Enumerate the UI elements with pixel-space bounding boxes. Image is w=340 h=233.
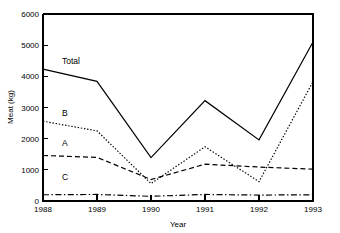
series-line-c xyxy=(43,194,313,196)
y-axis-ticks xyxy=(43,14,48,201)
y-axis-labels: 6000 5000 4000 3000 2000 1000 0 xyxy=(21,10,39,206)
series-label-total: Total xyxy=(62,56,80,66)
y-axis-title: Meat (kg) xyxy=(6,90,15,124)
series-line-a xyxy=(43,155,313,179)
y-tick-label-4000: 4000 xyxy=(21,72,39,81)
y-tick-label-3000: 3000 xyxy=(21,104,39,113)
y-tick-label-6000: 6000 xyxy=(21,10,39,19)
x-tick-label-1991: 1991 xyxy=(196,205,214,214)
x-axis-title: Year xyxy=(170,220,187,229)
series-line-total xyxy=(43,42,313,158)
x-axis-labels: 1988 1989 1990 1991 1992 1993 xyxy=(34,205,322,214)
y-tick-label-5000: 5000 xyxy=(21,41,39,50)
series-line-b xyxy=(43,82,313,184)
x-tick-label-1992: 1992 xyxy=(250,205,268,214)
chart-canvas: 6000 5000 4000 3000 2000 1000 0 1988 198… xyxy=(0,0,340,233)
x-tick-label-1990: 1990 xyxy=(142,205,160,214)
x-axis-ticks xyxy=(97,195,259,201)
series-label-c: C xyxy=(62,172,68,182)
y-tick-label-2000: 2000 xyxy=(21,135,39,144)
plot-frame xyxy=(43,14,313,201)
series-label-b: B xyxy=(62,108,68,118)
line-chart: 6000 5000 4000 3000 2000 1000 0 1988 198… xyxy=(0,0,340,233)
x-tick-label-1988: 1988 xyxy=(34,205,52,214)
y-tick-label-1000: 1000 xyxy=(21,166,39,175)
x-tick-label-1993: 1993 xyxy=(304,205,322,214)
series-label-a: A xyxy=(62,138,68,148)
x-tick-label-1989: 1989 xyxy=(88,205,106,214)
